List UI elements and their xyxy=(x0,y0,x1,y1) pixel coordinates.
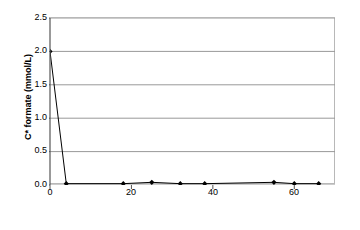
axis-spines xyxy=(49,17,339,192)
plot-area xyxy=(50,17,335,184)
chart-figure: C* formate (mmol/L) 2.5 2.0 1.5 1.0 0.5 … xyxy=(0,0,360,230)
